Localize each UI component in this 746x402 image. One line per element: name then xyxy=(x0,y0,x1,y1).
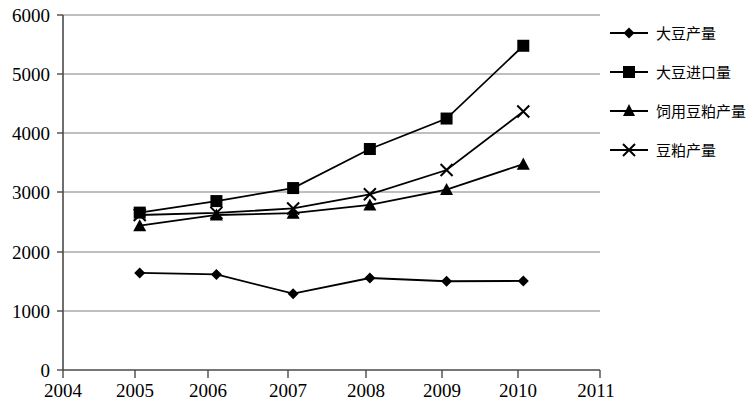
legend-label-1: 大豆进口量 xyxy=(656,64,731,81)
x-tick-label-2010: 2010 xyxy=(499,380,537,401)
chart-background xyxy=(0,0,746,402)
x-tick-label-2004: 2004 xyxy=(44,380,83,401)
square-marker-icon xyxy=(623,66,635,78)
y-tick-label-1000: 1000 xyxy=(12,301,50,322)
legend-label-2: 饲用豆粕产量 xyxy=(656,103,746,120)
data-point-square[interactable] xyxy=(517,40,529,52)
data-point-square[interactable] xyxy=(210,195,222,207)
x-tick-label-2006: 2006 xyxy=(189,380,227,401)
y-tick-label-2000: 2000 xyxy=(12,242,50,263)
data-point-square[interactable] xyxy=(134,207,146,219)
y-tick-label-4000: 4000 xyxy=(12,123,50,144)
x-tick-label-2005: 2005 xyxy=(116,380,154,401)
legend-label-0: 大豆产量 xyxy=(656,25,716,42)
x-tick-label-2008: 2008 xyxy=(347,380,385,401)
data-point-square[interactable] xyxy=(364,143,376,155)
data-point-square[interactable] xyxy=(287,182,299,194)
line-chart: 0 1000 2000 3000 4000 5000 6000 2004 200… xyxy=(0,0,746,402)
x-tick-label-2007: 2007 xyxy=(269,380,307,401)
y-tick-label-0: 0 xyxy=(41,360,51,381)
y-tick-label-3000: 3000 xyxy=(12,182,50,203)
x-tick-label-2011: 2011 xyxy=(577,380,614,401)
legend-label-3: 豆粕产量 xyxy=(656,142,716,159)
data-point-square[interactable] xyxy=(441,113,453,125)
x-tick-label-2009: 2009 xyxy=(423,380,461,401)
y-tick-label-5000: 5000 xyxy=(12,64,50,85)
y-tick-label-6000: 6000 xyxy=(12,5,50,26)
chart-container: 0 1000 2000 3000 4000 5000 6000 2004 200… xyxy=(0,0,746,402)
